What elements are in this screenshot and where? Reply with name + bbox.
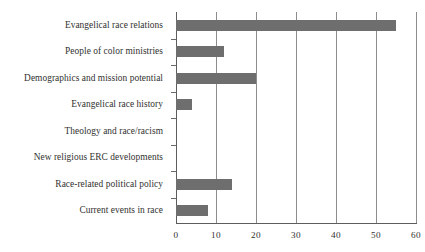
bar-3 — [176, 99, 192, 110]
category-label: Evangelical race history — [71, 99, 163, 110]
category-label: Current events in race — [79, 205, 163, 216]
x-tick-label: 30 — [291, 230, 301, 241]
category-label: New religious ERC developments — [34, 152, 163, 163]
bar-2 — [176, 73, 256, 84]
x-tick-label: 0 — [174, 230, 179, 241]
category-row: People of color ministries — [0, 39, 170, 66]
bar-row — [176, 198, 416, 225]
bar-row — [176, 145, 416, 172]
x-tick-label: 20 — [251, 230, 261, 241]
gridline-60 — [416, 12, 417, 224]
category-row: Race-related political policy — [0, 171, 170, 198]
plot-area — [176, 12, 416, 224]
category-row: Evangelical race history — [0, 92, 170, 119]
x-tick-label: 10 — [211, 230, 221, 241]
category-label: Evangelical race relations — [65, 20, 163, 31]
bar-chart-figure: Evangelical race relations People of col… — [0, 0, 425, 252]
x-tick-label: 60 — [411, 230, 421, 241]
value-axis-line — [176, 223, 417, 224]
category-row: Evangelical race relations — [0, 12, 170, 39]
category-row: Theology and race/racism — [0, 118, 170, 145]
bar-series — [176, 12, 416, 224]
bar-row — [176, 92, 416, 119]
x-tick-label: 40 — [331, 230, 341, 241]
category-row: Demographics and mission potential — [0, 65, 170, 92]
clipped-caption-text — [96, 0, 296, 2]
bar-row — [176, 39, 416, 66]
value-axis: 0102030405060 — [176, 226, 416, 246]
bar-row — [176, 171, 416, 198]
category-label: People of color ministries — [65, 46, 163, 57]
bar-7 — [176, 205, 208, 216]
category-label: Demographics and mission potential — [24, 73, 163, 84]
bar-1 — [176, 46, 224, 57]
category-label: Theology and race/racism — [64, 126, 163, 137]
bar-row — [176, 12, 416, 39]
category-row: Current events in race — [0, 198, 170, 225]
category-label: Race-related political policy — [55, 179, 163, 190]
category-row: New religious ERC developments — [0, 145, 170, 172]
bar-6 — [176, 179, 232, 190]
bar-row — [176, 118, 416, 145]
bar-row — [176, 65, 416, 92]
category-axis: Evangelical race relations People of col… — [0, 12, 170, 224]
bar-0 — [176, 20, 396, 31]
x-tick-label: 50 — [371, 230, 381, 241]
